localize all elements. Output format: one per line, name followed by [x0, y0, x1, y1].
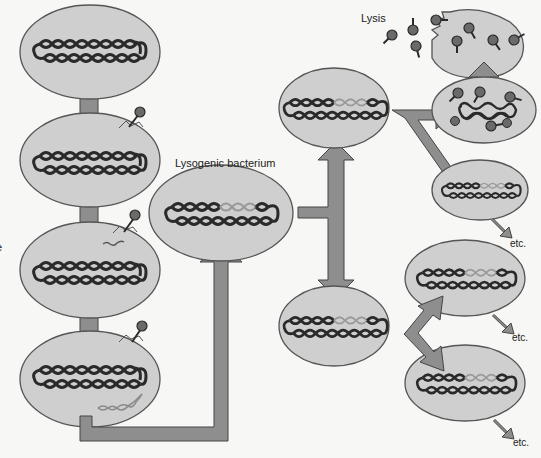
- arrow-etc-3: [494, 420, 514, 439]
- cell-3: [20, 210, 160, 318]
- label-edge-fragment: e: [0, 241, 2, 253]
- cell-right-small: [432, 160, 528, 220]
- cell-phage-assembly: [432, 77, 536, 143]
- cell-2: [20, 107, 160, 207]
- cell-right-bottom: [405, 345, 525, 421]
- arrow-etc-2: [493, 315, 514, 334]
- label-lysogenic-bacterium: Lysogenic bacterium: [175, 157, 275, 169]
- arrow-etc-1: [492, 219, 512, 238]
- label-etc-3: etc.: [513, 437, 529, 448]
- label-lysis: Lysis: [361, 12, 386, 24]
- label-etc-2: etc.: [512, 332, 528, 343]
- arrow-division: [298, 142, 354, 298]
- cell-mid-top: [279, 68, 389, 148]
- cell-lysogenic: [149, 165, 293, 261]
- arrow-division-right: [404, 296, 444, 371]
- cell-mid-bottom: [279, 286, 389, 366]
- cell-4: [20, 321, 160, 427]
- label-etc-1: etc.: [510, 238, 526, 249]
- cell-1: [20, 5, 160, 99]
- lysogenic-cycle-diagram: [0, 0, 541, 458]
